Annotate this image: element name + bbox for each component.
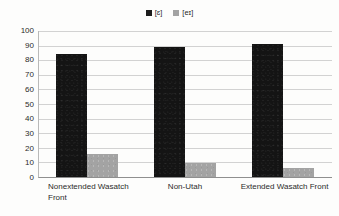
- bar-epsilon-extended[interactable]: [252, 44, 283, 177]
- y-tick-80: 80: [0, 56, 34, 64]
- bar-ei-non-utah[interactable]: [185, 163, 216, 177]
- x-label-extended-wasatch-front: Extended Wasatch Front: [231, 182, 332, 203]
- gray-swatch-icon: [173, 10, 179, 16]
- y-tick-70: 70: [0, 71, 34, 79]
- x-label-non-utah: Non-Utah: [139, 182, 230, 203]
- bar-ei-nonextended[interactable]: [87, 154, 118, 177]
- legend-entry-epsilon: [ɛ]: [146, 9, 163, 17]
- bar-epsilon-non-utah[interactable]: [154, 47, 185, 177]
- y-tick-20: 20: [0, 145, 34, 153]
- chart-legend: [ɛ] [eɪ]: [0, 7, 339, 19]
- y-tick-30: 30: [0, 130, 34, 138]
- y-tick-0: 0: [0, 174, 34, 182]
- legend-entry-ei: [eɪ]: [173, 9, 193, 17]
- y-tick-40: 40: [0, 115, 34, 123]
- y-axis: 100 90 80 70 60 50 40 30 20 10 0: [0, 31, 34, 178]
- x-label-nonextended-wasatch-front: Nonextended Wasatch Front: [38, 182, 139, 203]
- bar-group-non-utah: [136, 31, 234, 177]
- x-axis: Nonextended Wasatch Front Non-Utah Exten…: [38, 182, 332, 203]
- bar-group-extended-wasatch-front: [234, 31, 332, 177]
- y-tick-60: 60: [0, 86, 34, 94]
- y-tick-90: 90: [0, 42, 34, 50]
- legend-label-epsilon: [ɛ]: [155, 9, 163, 17]
- y-tick-10: 10: [0, 159, 34, 167]
- bar-group-nonextended-wasatch-front: [38, 31, 136, 177]
- y-tick-50: 50: [0, 101, 34, 109]
- bar-chart: [ɛ] [eɪ] 100 90 80 70 60 50 40 30 20 10 …: [0, 0, 339, 216]
- dark-swatch-icon: [146, 10, 152, 16]
- legend-label-ei: [eɪ]: [182, 9, 193, 17]
- y-tick-100: 100: [0, 27, 34, 35]
- bar-ei-extended[interactable]: [283, 168, 314, 177]
- bars-layer: [38, 31, 332, 177]
- bar-epsilon-nonextended[interactable]: [56, 54, 87, 177]
